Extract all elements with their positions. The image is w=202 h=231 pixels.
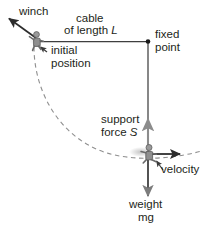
weight-label-line1: weight xyxy=(129,198,162,211)
winch-arrow xyxy=(9,19,36,39)
fixed-point-label-line1: fixed xyxy=(155,28,179,41)
winch-label: winch xyxy=(19,5,48,18)
support-force-label-prefix: force xyxy=(101,126,130,138)
initial-position-label-line1: initial xyxy=(51,44,77,57)
fixed-point-label-line2: point xyxy=(155,41,180,54)
cable-label-line2: of length L xyxy=(64,24,118,37)
fixed-point-marker xyxy=(146,39,151,44)
physics-diagram: winch cable of length L fixed point init… xyxy=(0,0,202,231)
support-force-label-line1: support xyxy=(101,113,139,126)
cable-label-prefix: of length xyxy=(64,24,111,36)
cable-length-symbol: L xyxy=(111,24,117,36)
support-force-label-line2: force S xyxy=(101,126,137,139)
velocity-label: velocity xyxy=(161,163,199,176)
cable-label-line1: cable xyxy=(76,12,104,25)
initial-position-label-line2: position xyxy=(51,57,91,70)
weight-label-line2: mg xyxy=(138,211,154,224)
support-force-symbol: S xyxy=(130,126,138,138)
